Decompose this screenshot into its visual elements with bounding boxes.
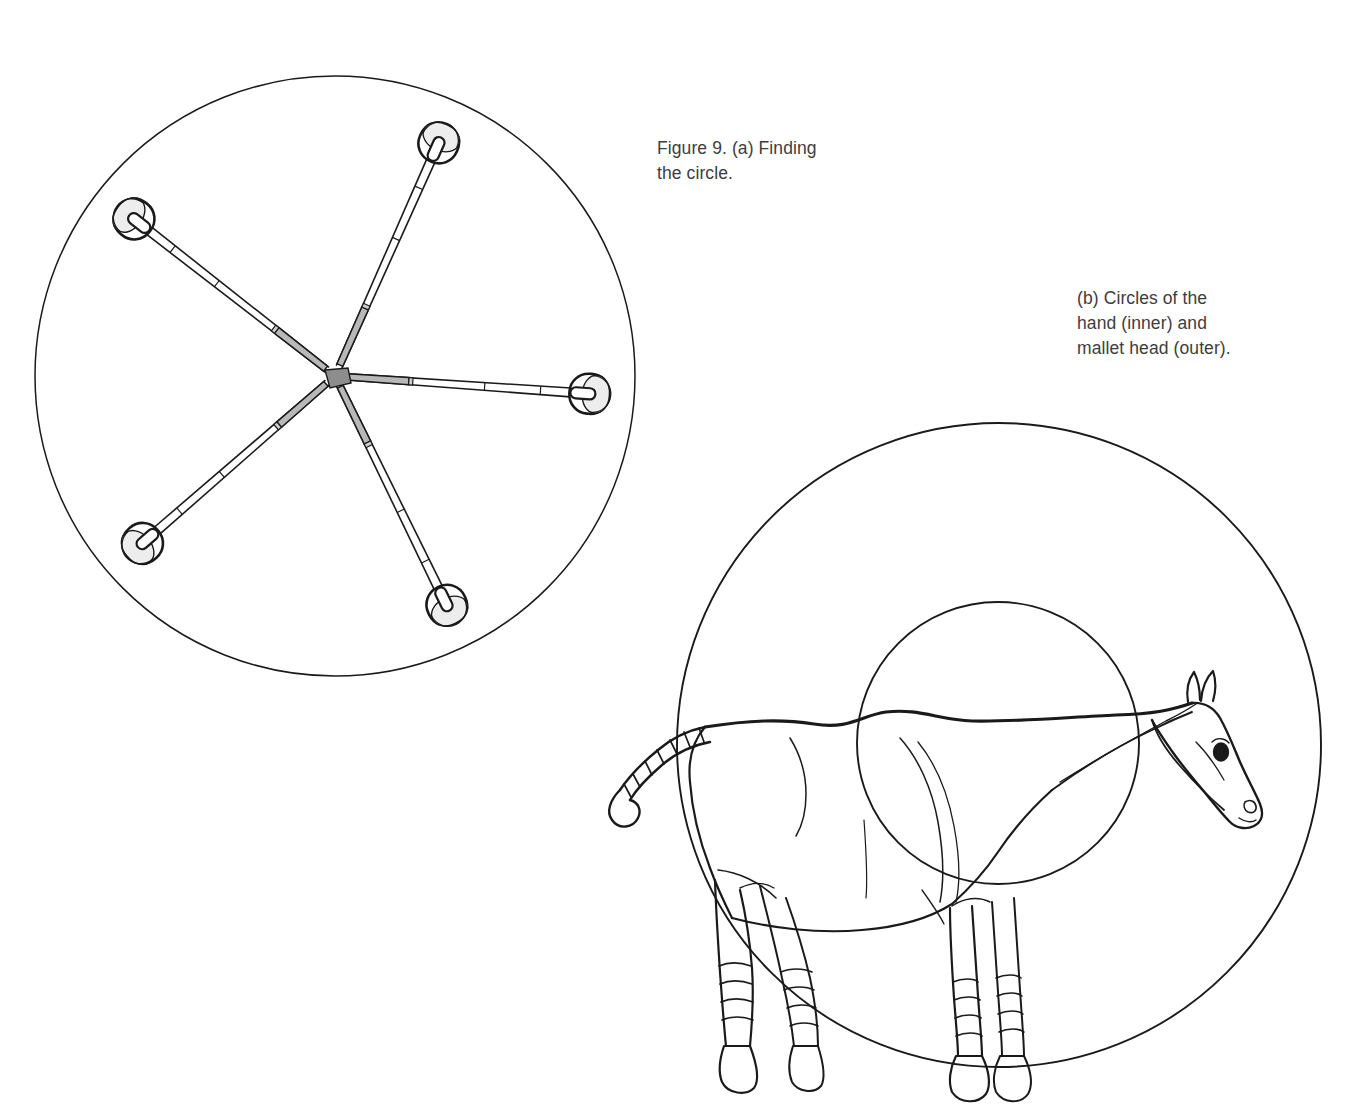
horse-hind-leg-near-back [740,890,753,1046]
horse-mouth [1239,818,1256,822]
horse-tail-tip [609,790,639,827]
mallet-top [321,115,466,375]
horse-chest [952,790,1052,904]
mallet-lower-right [321,376,474,633]
horse-drawing [609,671,1262,1101]
horse-shoulder-line-1 [900,738,943,902]
horse-fore-leg-far [992,902,1002,1056]
horse-tail-lower [630,742,710,800]
horse-hind-leg-near-bands [719,963,753,1020]
horse-eye [1214,743,1229,761]
horse-ear-far [1201,671,1215,701]
horse-tail-upper [620,727,705,790]
figure-a-finding-the-circle [0,0,700,720]
mallet-lower-left [113,367,340,572]
horse-fore-hoof-near [950,1056,989,1101]
horse-stifle-line [718,870,776,898]
horse-hind-hoof-near [720,1046,757,1093]
inner-circle-hand [857,602,1139,884]
horse-hind-hoof-far [789,1046,823,1091]
horse-tail-bands [624,728,704,797]
horse-nostril [1244,801,1256,813]
horse-jaw-line [1152,720,1224,810]
figure-caption-a: Figure 9. (a) Finding the circle. [657,136,887,186]
horse-ear-near [1187,672,1200,702]
horse-flank-line [790,738,806,836]
mallet-upper-left [105,190,340,386]
horse-topline [705,703,1192,727]
mallet-right [344,357,613,415]
horse-barrel-line [864,820,867,898]
figure-caption-b: (b) Circles of the hand (inner) and mall… [1077,286,1307,361]
mallet-hub [325,368,351,388]
figure-b-circles-of-hand-and-mallet-head [600,390,1360,1114]
horse-fore-hoof-far [994,1056,1031,1101]
